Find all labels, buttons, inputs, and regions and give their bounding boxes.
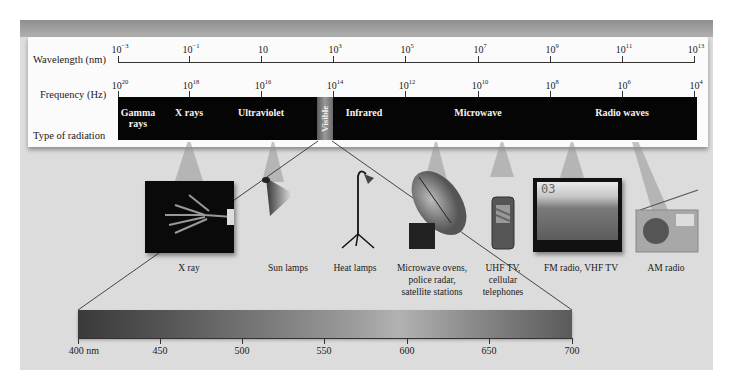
visible-spectrum-tick-label: 400 nm (69, 345, 99, 356)
caption-uhf-line2: cellular (483, 274, 524, 286)
visible-spectrum-bar (78, 310, 572, 338)
visible-spectrum-tick-label: 550 (317, 345, 332, 356)
caption-uhf-line3: telephones (483, 286, 524, 298)
television-icon: 03 (533, 178, 622, 252)
visible-spectrum-tick-label: 700 (565, 345, 580, 356)
visible-spectrum-tick (160, 338, 161, 344)
visible-spectrum-tick (324, 338, 325, 344)
visible-spectrum-tick (572, 338, 573, 344)
caption-microwave-line1: Microwave ovens, (397, 262, 467, 274)
visible-spectrum-axis (78, 338, 572, 339)
caption-uhf-line1: UHF TV, (483, 262, 524, 274)
caption-microwave-line3: satellite stations (397, 286, 467, 298)
visible-spectrum-tick (407, 338, 408, 344)
sun-lamp-icon (258, 176, 298, 218)
satellite-dish-icon (405, 165, 475, 253)
visible-spectrum-tick-label: 600 (400, 345, 415, 356)
cell-phone-icon (490, 195, 518, 251)
x-ray-hand-image (145, 181, 234, 253)
visible-spectrum-tick (78, 338, 79, 344)
hand-bones-icon (145, 181, 234, 253)
visible-spectrum-tick (242, 338, 243, 344)
heat-lamp-icon (338, 168, 378, 250)
caption-sun-lamps: Sun lamps (268, 262, 308, 274)
visible-spectrum-tick (489, 338, 490, 344)
visible-spectrum-tick-label: 500 (235, 345, 250, 356)
caption-uhf: UHF TV, cellular telephones (483, 262, 524, 298)
tv-channel-number: 03 (541, 182, 555, 196)
am-radio-icon (632, 188, 702, 254)
caption-fm: FM radio, VHF TV (544, 262, 618, 274)
caption-microwave: Microwave ovens, police radar, satellite… (397, 262, 467, 298)
caption-am: AM radio (647, 262, 684, 274)
caption-xray: X ray (178, 262, 199, 274)
caption-heat-lamps: Heat lamps (333, 262, 376, 274)
visible-spectrum-tick-label: 650 (482, 345, 497, 356)
caption-microwave-line2: police radar, (397, 274, 467, 286)
visible-spectrum-tick-label: 450 (153, 345, 168, 356)
